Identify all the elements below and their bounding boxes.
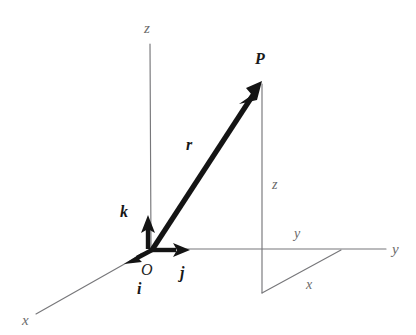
- unit-vector-i-label: i: [137, 280, 142, 297]
- position-vector-r: [152, 81, 262, 250]
- vector-diagram-canvas: z y x k j i O P r z y x: [0, 0, 416, 335]
- point-p-label: P: [254, 50, 265, 67]
- unit-vector-k-label: k: [120, 203, 128, 220]
- vector-r-shaft: [152, 92, 255, 250]
- y-axis-label: y: [390, 241, 399, 257]
- unit-vector-i-shaft: [137, 250, 152, 258]
- unit-vector-j-label: j: [177, 264, 185, 282]
- vector-r-arrowhead: [239, 81, 262, 104]
- coordinate-axes: [36, 44, 386, 314]
- x-component-label: x: [305, 277, 313, 292]
- vector-diagram-figure: z y x k j i O P r z y x: [0, 0, 416, 335]
- origin-label: O: [141, 261, 153, 278]
- x-component-line: [262, 250, 341, 293]
- z-axis-label: z: [143, 20, 150, 36]
- y-component-label: y: [292, 226, 301, 241]
- x-axis-label: x: [21, 312, 29, 328]
- vector-r-label: r: [186, 136, 193, 153]
- z-axis-line: [150, 44, 151, 248]
- z-component-label: z: [271, 177, 278, 192]
